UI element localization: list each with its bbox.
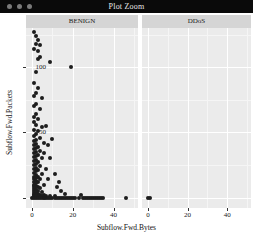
data-point [36,57,40,61]
y-axis-tick-mark [23,132,26,133]
gridline-minor-horizontal [26,100,138,101]
y-axis-label: Subflow.Fwd.Packets [5,63,14,183]
gridline-major-vertical [148,28,149,208]
x-axis-tick-label: 20 [180,212,196,219]
data-point [32,94,36,98]
x-axis-tick-mark [114,208,115,211]
data-point [59,189,63,193]
data-point [32,81,36,85]
window-title: Plot Zoom [0,0,253,13]
window-titlebar[interactable]: Plot Zoom [0,0,253,14]
data-point [36,38,40,42]
x-axis-tick-mark [73,208,74,211]
data-point [36,117,40,121]
gridline-minor-vertical [134,28,135,208]
data-point [124,196,128,200]
gridline-minor-vertical [93,28,94,208]
data-point [38,43,42,47]
facet-strip-label-benign: BENIGN [26,15,138,28]
x-axis-tick-label: 40 [219,212,235,219]
x-axis-tick-label: 0 [24,212,40,219]
y-axis-tick-mark [23,67,26,68]
x-axis-tick-mark [227,208,228,211]
gridline-minor-vertical [247,28,248,208]
y-axis-tick-label: 0 [43,195,47,202]
data-point [69,65,73,69]
scatter-plot-figure: BENIGN DDoS 0501000204002040 Subflow.Fwd… [0,13,253,239]
data-point [36,49,40,53]
x-axis-label: Subflow.Fwd.Bytes [0,223,253,232]
data-point [55,185,59,189]
data-point [44,124,48,128]
y-axis-tick-mark [23,198,26,199]
y-axis-tick-label: 50 [39,129,46,136]
x-axis-tick-label: 20 [65,212,81,219]
gridline-minor-horizontal [142,35,251,36]
gridline-minor-horizontal [142,100,251,101]
data-point [50,137,54,141]
panel-benign[interactable] [26,28,138,208]
data-point [44,167,48,171]
gridline-minor-horizontal [26,35,138,36]
gridline-minor-horizontal [26,165,138,166]
data-point [42,151,46,155]
data-point [34,123,38,127]
panel-ddos[interactable] [142,28,251,208]
gridline-minor-horizontal [142,165,251,166]
gridline-minor-vertical [207,28,208,208]
data-point [63,192,67,196]
gridline-major-horizontal [142,198,251,199]
data-point [148,196,152,200]
gridline-minor-vertical [168,28,169,208]
x-axis-tick-label: 0 [140,212,156,219]
data-point [32,104,36,108]
data-point [42,183,46,187]
data-point [46,143,50,147]
gridline-major-vertical [114,28,115,208]
data-point [36,86,40,90]
x-axis-tick-mark [148,208,149,211]
data-point [79,193,83,197]
gridline-minor-vertical [52,28,53,208]
data-point [40,156,44,160]
plot-zoom-window: Plot Zoom BENIGN DDoS 0501000204002040 S… [0,0,253,239]
x-axis-tick-label: 40 [106,212,122,219]
data-point [53,172,57,176]
data-point [38,107,42,111]
data-point [57,180,61,184]
facet-strip-benign: BENIGN [26,15,138,28]
data-point [46,177,50,181]
x-axis-tick-mark [32,208,33,211]
data-point [101,196,105,200]
gridline-major-horizontal [142,132,251,133]
y-axis-tick-label: 100 [36,64,47,71]
facet-strip-label-ddos: DDoS [142,15,251,28]
gridline-major-vertical [227,28,228,208]
x-axis-tick-mark [188,208,189,211]
gridline-major-vertical [73,28,74,208]
gridline-major-horizontal [142,67,251,68]
gridline-major-vertical [188,28,189,208]
data-point [40,172,44,176]
facet-strip-ddos: DDoS [142,15,251,28]
